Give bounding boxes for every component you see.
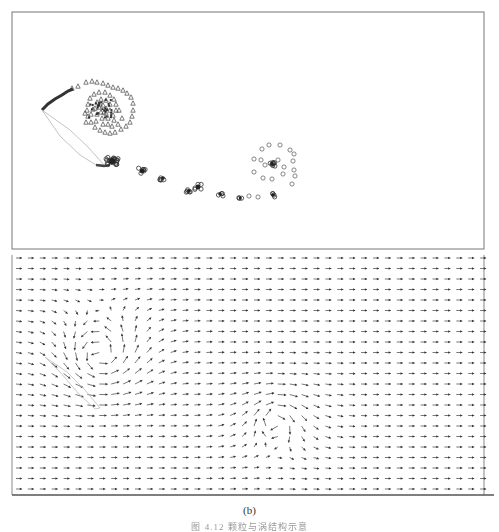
arrowhead [306,362,308,365]
arrowhead [365,278,367,281]
arrowhead [317,351,319,354]
arrowhead [401,477,403,480]
arrowhead [282,257,284,260]
arrowhead [424,383,426,386]
arrowhead [116,425,118,428]
arrowhead [424,309,426,312]
arrowhead [174,467,176,470]
arrowhead [127,477,129,480]
arrowhead [424,278,426,281]
arrowhead [20,309,22,312]
arrowhead [210,320,212,323]
arrowhead [245,411,248,413]
arrowhead [303,448,306,450]
arrowhead [198,424,200,427]
arrowhead [149,308,152,310]
arrowhead [424,299,426,302]
arrowhead [246,267,248,270]
arrowhead [198,361,200,364]
arrowhead [114,288,116,291]
arrowhead [401,467,403,470]
arrowhead [448,393,450,396]
arrowhead [401,309,403,312]
arrowhead [162,349,165,351]
arrowhead [68,376,71,378]
arrowhead [198,320,200,323]
arrowhead [44,477,46,480]
arrowhead [341,362,343,365]
arrowhead [448,278,450,281]
arrowhead [472,257,474,260]
arrowhead [91,341,93,344]
arrowhead [198,372,200,375]
arrowhead [137,298,140,300]
arrowhead [81,385,84,387]
arrowhead [412,477,414,480]
arrowhead [341,488,343,491]
arrowhead [233,456,235,459]
arrowhead [67,267,69,270]
arrowhead [270,267,272,270]
arrowhead [115,446,117,449]
arrowhead [254,431,257,433]
arrowhead [222,372,224,375]
arrowhead [105,372,107,375]
plot-frame [12,12,484,249]
arrowhead [210,414,212,417]
arrowhead [341,394,343,397]
arrowhead [81,335,84,337]
arrowhead [74,324,77,326]
arrowhead [150,288,152,291]
arrowhead [460,320,462,323]
arrowhead [116,414,118,417]
arrowhead [139,467,141,470]
arrowhead [115,467,117,470]
arrowhead [186,435,188,438]
arrowhead [460,267,462,270]
arrowhead [222,413,224,416]
arrowhead [258,341,260,344]
arrowhead [353,341,355,344]
arrowhead [67,367,69,370]
arrowhead [401,446,403,449]
arrowhead [32,488,34,491]
arrowhead [210,267,212,270]
arrowhead [303,429,305,432]
arrowhead [282,351,284,354]
arrowhead [148,327,150,330]
arrowhead [460,309,462,312]
arrowhead [234,477,236,480]
arrowhead [412,467,414,470]
arrowhead [210,403,212,406]
arrowhead [377,383,379,386]
arrowhead [186,351,188,354]
arrowhead [412,435,414,438]
arrowhead [44,488,46,491]
arrowhead [389,372,391,375]
arrowhead [289,432,292,434]
arrowhead [460,425,462,428]
arrowhead [20,257,22,260]
arrowhead [448,320,450,323]
arrowhead [222,466,224,469]
arrowhead [234,309,236,312]
arrowhead [436,351,438,354]
arrowhead [121,334,124,336]
arrowhead [127,368,130,370]
arrowhead [305,278,307,281]
arrowhead [162,371,165,373]
arrowhead [162,267,164,270]
arrowhead [105,404,107,407]
arrowhead [353,383,355,386]
arrowhead [246,341,248,344]
arrowhead [234,288,236,291]
arrowhead [353,362,355,365]
arrowhead [32,373,34,376]
arrowhead [20,299,22,302]
arrowhead [295,395,297,398]
arrowhead [484,488,486,491]
arrowhead [174,477,176,480]
arrowhead [43,353,46,355]
arrowhead [92,415,94,418]
arrowhead [484,299,486,302]
